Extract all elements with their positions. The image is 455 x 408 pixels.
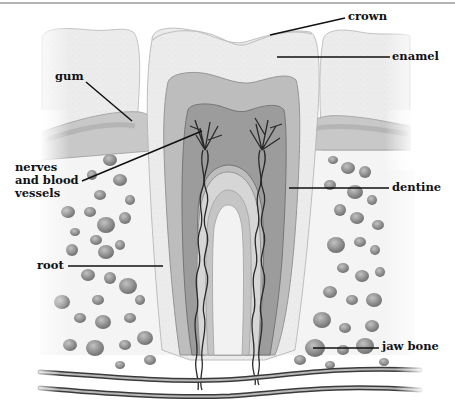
label-jaw-bone: jaw bone [382,340,439,353]
label-enamel: enamel [392,50,439,63]
label-dentine: dentine [392,181,441,194]
label-root: root [37,259,64,272]
label-nerves-and-blood-vessels: nerves and blood vessels [15,161,79,200]
label-nerves-line-3: vessels [15,187,79,200]
main-tooth [147,28,319,360]
label-crown: crown [348,10,387,23]
nerve-bundle-bottom [30,360,425,405]
label-gum: gum [55,70,84,83]
